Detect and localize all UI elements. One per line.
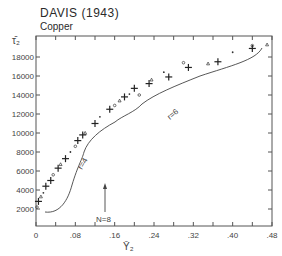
- x-tick-label: .32: [188, 231, 200, 240]
- plot-frame: [36, 36, 272, 226]
- y-tick-label: 2000: [16, 205, 34, 214]
- y-tick-label: 10000: [12, 129, 35, 138]
- y-tick-label: 4000: [16, 186, 34, 195]
- x-axis-label: Ȳ₂: [123, 241, 134, 252]
- curve-r6: [115, 48, 262, 122]
- x-tick-label: 0: [34, 231, 39, 240]
- y-axis: 2000400060008000100001200014000160001800…: [12, 53, 272, 214]
- x-tick-label: .48: [266, 231, 278, 240]
- y-tick-label: 14000: [12, 91, 35, 100]
- y-tick-label: 12000: [12, 110, 35, 119]
- annotation-r6: r=6: [166, 107, 181, 122]
- annotation-n8: N=8: [96, 215, 111, 224]
- x-axis: 0.08.16.24.32.40.48: [34, 36, 278, 240]
- annotation-r4: r=4: [76, 156, 90, 171]
- x-tick-label: .16: [109, 231, 121, 240]
- x-tick-label: .40: [227, 231, 239, 240]
- scatter-plot: 2000400060008000100001200014000160001800…: [0, 0, 282, 256]
- y-tick-label: 6000: [16, 167, 34, 176]
- y-axis-label: τ̄₂: [12, 35, 20, 46]
- y-tick-label: 8000: [16, 148, 34, 157]
- y-tick-label: 18000: [12, 53, 35, 62]
- y-tick-label: 16000: [12, 72, 35, 81]
- x-tick-label: .24: [148, 231, 160, 240]
- x-tick-label: .08: [70, 231, 82, 240]
- data-points: [35, 43, 269, 208]
- n8-arrowhead: [103, 183, 107, 189]
